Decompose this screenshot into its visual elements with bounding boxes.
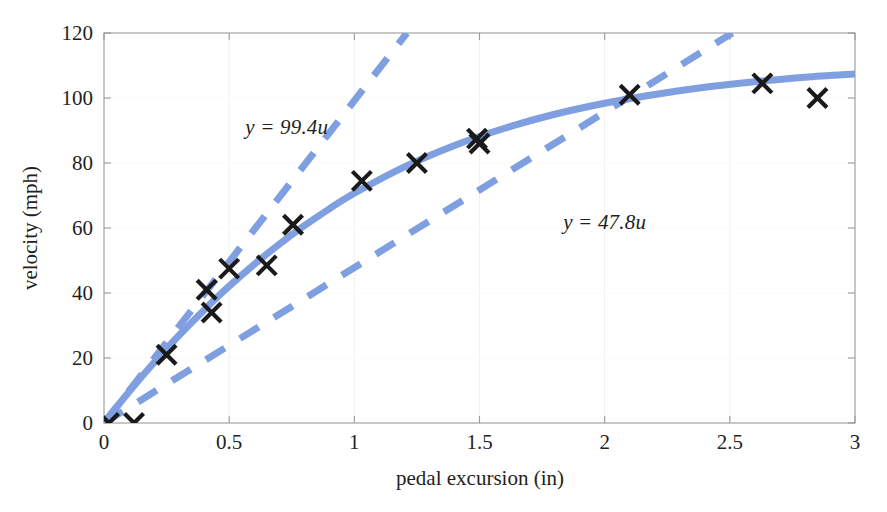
- x-tick-label-3: 1.5: [466, 432, 492, 453]
- equation-annotation-0: y = 99.4u: [245, 115, 328, 140]
- equation-annotation-1: y = 47.8u: [563, 209, 646, 234]
- y-tick-label-6: 120: [62, 23, 94, 44]
- y-tick-label-5: 100: [62, 88, 94, 109]
- data-point-6: [257, 256, 276, 275]
- x-tick-label-5: 2.5: [717, 432, 743, 453]
- x-tick-label-4: 2: [599, 432, 610, 453]
- x-axis-title: pedal excursion (in): [396, 466, 564, 491]
- y-axis-title: velocity (mph): [18, 166, 43, 290]
- y-tick-label-4: 80: [72, 153, 93, 174]
- y-tick-label-2: 40: [72, 283, 93, 304]
- plot-canvas: [0, 0, 887, 512]
- y-tick-label-0: 0: [83, 413, 94, 434]
- data-markers: [100, 74, 827, 433]
- chart-figure: 02040608010012000.511.522.53 pedal excur…: [0, 0, 887, 512]
- x-tick-label-2: 1: [349, 432, 360, 453]
- x-tick-label-1: 0.5: [216, 432, 242, 453]
- x-tick-label-0: 0: [99, 432, 110, 453]
- y-tick-label-3: 60: [72, 218, 93, 239]
- x-tick-label-6: 3: [850, 432, 861, 453]
- gridlines: [104, 33, 855, 423]
- y-tick-label-1: 20: [72, 348, 93, 369]
